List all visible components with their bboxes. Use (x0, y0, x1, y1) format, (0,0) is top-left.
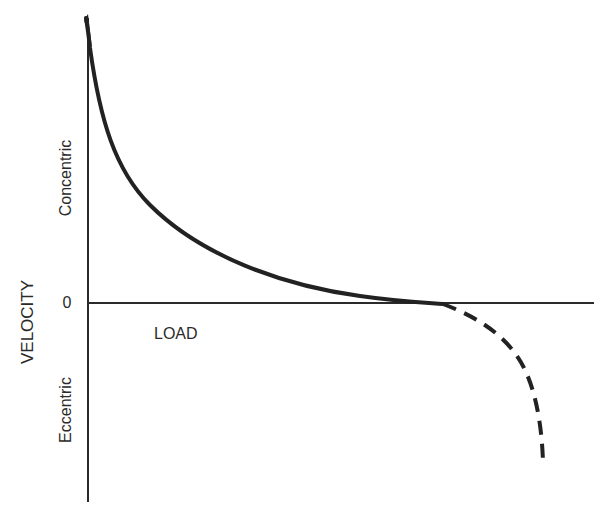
x-axis-label: LOAD (154, 325, 198, 342)
concentric-label: Concentric (57, 140, 74, 216)
y-axis-label: VELOCITY (18, 280, 37, 364)
zero-label: 0 (63, 294, 72, 311)
eccentric-label: Eccentric (57, 377, 74, 443)
concentric-curve (86, 18, 443, 304)
eccentric-curve (443, 304, 543, 462)
force-velocity-chart: VELOCITY Concentric Eccentric 0 LOAD (0, 0, 613, 522)
